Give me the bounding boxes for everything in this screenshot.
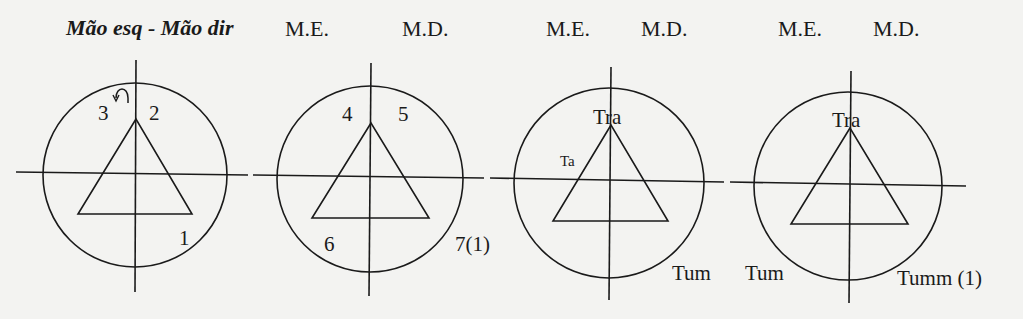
syllable-tra-4: Tra — [832, 110, 860, 131]
vertical-axis-4 — [849, 71, 851, 303]
diagram-2-shapes — [277, 63, 463, 296]
header-left-hand-2: M.E. — [285, 18, 329, 40]
beat-label-1: 1 — [179, 228, 190, 249]
horizontal-axis-1 — [16, 172, 248, 175]
header-right-hand-2: M.D. — [402, 18, 448, 40]
header-right-hand-3: M.D. — [641, 18, 687, 40]
header-right-hand-4: M.D. — [873, 18, 919, 40]
diagram-geometry — [0, 0, 1023, 319]
horizontal-axis-4 — [730, 182, 966, 186]
header-left-hand-4: M.E. — [778, 18, 822, 40]
horizontal-axis-3 — [490, 178, 724, 182]
syllable-tum-4: Tum — [745, 263, 784, 284]
beat-label-3: 3 — [98, 103, 109, 124]
syllable-tra-3: Tra — [593, 107, 621, 128]
syllable-tumm-1-4: Tumm (1) — [897, 268, 982, 289]
beat-label-4: 4 — [342, 104, 353, 125]
vertical-axis-3 — [609, 67, 611, 300]
title: Mão esq - Mão dir — [66, 17, 233, 39]
vertical-axis-1 — [135, 60, 136, 292]
hand-pattern-diagram: Mão esq - Mão dir M.E. M.D. M.E. M.D. M.… — [0, 0, 1023, 319]
header-left-hand-3: M.E. — [546, 18, 590, 40]
beat-label-5: 5 — [398, 104, 409, 125]
vertical-axis-2 — [369, 63, 371, 296]
counterclockwise-arrow-icon — [113, 89, 128, 103]
beat-label-2: 2 — [149, 103, 160, 124]
horizontal-axis-2 — [253, 175, 484, 178]
syllable-tum-3: Tum — [672, 263, 711, 284]
beat-label-7-1: 7(1) — [455, 234, 490, 255]
syllable-ta-3: Ta — [560, 154, 575, 169]
diagram-1-shapes — [43, 60, 227, 292]
beat-label-6: 6 — [324, 234, 335, 255]
